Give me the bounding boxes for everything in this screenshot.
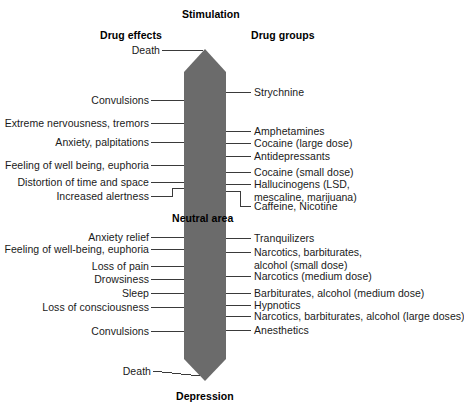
left-effect-loss-of-pain: Loss of pain xyxy=(92,260,149,272)
left-effect-anxiety-palpitations: Anxiety, palpitations xyxy=(55,136,149,148)
left-effect-feeling-of-well-being-euphoria-up: Feeling of well being, euphoria xyxy=(5,159,149,171)
left-effect-convulsions-top: Convulsions xyxy=(91,94,149,106)
right-group-narcotics-small-dose: Narcotics, barbiturates, alcohol (small … xyxy=(254,246,362,271)
right-group-anesthetics: Anesthetics xyxy=(254,324,309,336)
leader-right-caffeine-nicotine-bracket xyxy=(226,191,251,206)
column-header-drug-groups: Drug groups xyxy=(251,29,315,41)
left-effect-extreme-nervousness-tremors: Extreme nervousness, tremors xyxy=(5,117,149,129)
leader-left-death-bottom xyxy=(153,371,200,376)
leader-left-increased-alertness-bracket xyxy=(151,188,184,196)
right-group-tranquilizers: Tranquilizers xyxy=(254,232,314,244)
right-group-strychnine: Strychnine xyxy=(254,86,304,98)
right-group-narcotics-barbiturates-alcohol-large-doses: Narcotics, barbiturates, alcohol (large … xyxy=(254,310,464,322)
right-group-cocaine-small-dose: Cocaine (small dose) xyxy=(254,166,354,178)
right-group-antidepressants: Antidepressants xyxy=(254,150,330,162)
right-group-caffeine-nicotine: Caffeine, Nicotine xyxy=(254,200,338,212)
left-effect-distortion-of-time-and-space: Distortion of time and space xyxy=(17,176,149,188)
left-effect-increased-alertness: Increased alertness xyxy=(56,190,149,202)
drug-effects-spectrum-diagram: Stimulation Drug effects Drug groups Neu… xyxy=(0,0,464,409)
title-depression: Depression xyxy=(176,390,234,402)
left-effect-drowsiness: Drowsiness xyxy=(94,273,149,285)
right-group-hallucinogens-line1: Hallucinogens (LSD, xyxy=(254,178,357,191)
right-group-narcotics-medium-dose: Narcotics (medium dose) xyxy=(254,270,372,282)
left-effect-convulsions-bottom: Convulsions xyxy=(91,325,149,337)
right-group-amphetamines: Amphetamines xyxy=(254,125,325,137)
left-effect-feeling-of-well-being-euphoria-down: Feeling of well-being, euphoria xyxy=(4,243,149,255)
left-effect-anxiety-relief: Anxiety relief xyxy=(88,231,149,243)
diagram-graphics-layer xyxy=(0,0,464,409)
left-effect-loss-of-consciousness: Loss of consciousness xyxy=(42,301,149,313)
right-group-narcotics-small-dose-line1: Narcotics, barbiturates, xyxy=(254,246,362,259)
left-effect-death-bottom: Death xyxy=(123,365,151,377)
title-stimulation: Stimulation xyxy=(182,8,240,20)
left-effect-sleep: Sleep xyxy=(122,287,149,299)
left-effect-death-top: Death xyxy=(132,44,160,56)
column-header-drug-effects: Drug effects xyxy=(100,29,162,41)
right-group-barbiturates-alcohol-medium-dose: Barbiturates, alcohol (medium dose) xyxy=(254,287,424,299)
right-group-cocaine-large-dose: Cocaine (large dose) xyxy=(254,137,352,149)
label-neutral-area: Neutral area xyxy=(172,212,233,224)
